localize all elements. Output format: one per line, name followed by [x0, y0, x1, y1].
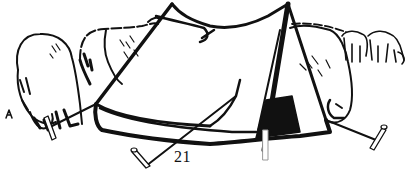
tent-and-sheep-illustration [0, 0, 408, 172]
tent-pole [263, 130, 268, 160]
document-page: 21 [0, 0, 408, 172]
page-number: 21 [174, 148, 191, 166]
